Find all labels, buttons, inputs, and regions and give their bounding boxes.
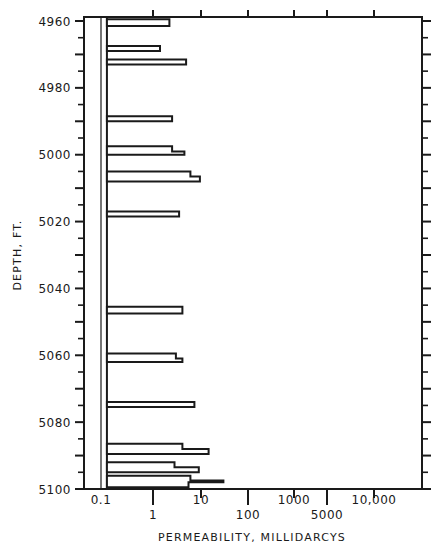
x-tick-label: 0.1 [91,493,112,507]
x-tick-label: 5000 [311,508,344,522]
bar-interval-11 [107,444,209,454]
y-axis-right-ticks [422,21,431,489]
y-tick-label: 5080 [38,416,71,430]
bar-interval-6 [107,171,200,181]
bar-interval-7 [107,212,179,217]
y-axis-title: DEPTH, FT. [11,219,24,290]
bars-layer [107,17,223,489]
y-tick-label: 5020 [38,215,71,229]
bar-interval-2 [107,46,160,51]
y-tick-label: 5000 [38,148,71,162]
bar-interval-13 [107,476,223,488]
x-tick-label: 100 [236,508,260,522]
bar-interval-1 [107,19,169,26]
y-tick-label: 5040 [38,282,71,296]
bar-interval-9 [107,354,182,362]
y-tick-label: 4960 [38,15,71,29]
bar-interval-8 [107,307,182,314]
x-tick-label: 10 [193,493,209,507]
y-axis: 49604980500050205040506050805100 [38,15,84,497]
x-tick-label: 10,000 [352,493,397,507]
permeability-depth-chart: 49604980500050205040506050805100 0.11101… [0,0,440,550]
bar-interval-5 [107,146,184,154]
plot-frame [84,17,422,489]
x-tick-label: 1000 [278,493,311,507]
bar-interval-3 [107,59,186,64]
x-tick-label: 1 [149,508,157,522]
y-tick-label: 5100 [38,483,71,497]
bar-interval-12 [107,462,199,472]
bar-interval-4 [107,116,172,121]
bar-interval-10 [107,402,194,407]
y-tick-label: 4980 [38,81,71,95]
y-tick-label: 5060 [38,349,71,363]
x-axis-title: PERMEABILITY, MILLIDARCYS [158,531,346,544]
